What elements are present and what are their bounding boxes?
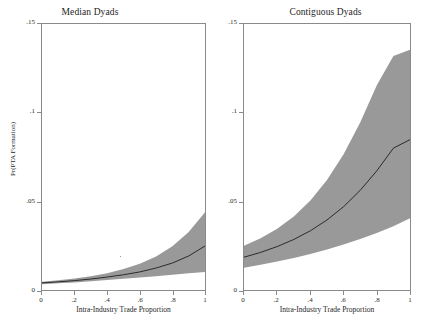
plot-area-contiguous-dyads xyxy=(243,23,411,291)
panel-title-contiguous-dyads: Contiguous Dyads xyxy=(210,7,433,17)
panel-contiguous-dyads: Contiguous Dyads 0 .05 .1 .15 0 .2 .4 xyxy=(202,0,433,329)
y-tick-left-3: .15 xyxy=(0,23,41,24)
x-tick-mark xyxy=(107,291,108,295)
x-axis-title-right: Intra-Industry Trade Proportion xyxy=(243,305,411,314)
figure-root: Median Dyads Pr(PTA Formation) 0 .05 .1 … xyxy=(0,0,433,329)
x-tick-mark xyxy=(243,291,244,295)
confidence-band xyxy=(42,212,205,284)
x-tick-mark xyxy=(74,291,75,295)
y-tick-left-0: 0 xyxy=(0,291,41,292)
plot-svg-median-dyads xyxy=(42,24,205,290)
x-axis-title-left: Intra-Industry Trade Proportion xyxy=(41,305,206,314)
y-tick-right-3: .15 xyxy=(202,23,243,24)
x-tick-mark xyxy=(41,291,42,295)
x-tick-mark xyxy=(276,291,277,295)
x-tick-mark xyxy=(140,291,141,295)
y-tick-left-2: .1 xyxy=(0,112,41,113)
y-tick-right-1: .05 xyxy=(202,202,243,203)
plot-svg-contiguous-dyads xyxy=(244,24,410,290)
x-tick-mark xyxy=(310,291,311,295)
panel-median-dyads: Median Dyads Pr(PTA Formation) 0 .05 .1 … xyxy=(0,0,216,329)
x-tick-mark xyxy=(173,291,174,295)
x-tick-mark xyxy=(410,291,411,295)
y-axis-title-left: Pr(PTA Formation) xyxy=(9,99,17,199)
y-tick-left-1: .05 xyxy=(0,202,41,203)
stray-mark xyxy=(120,256,121,257)
x-tick-mark xyxy=(343,291,344,295)
plot-area-median-dyads xyxy=(41,23,206,291)
panel-title-median-dyads: Median Dyads xyxy=(0,7,198,17)
y-tick-right-0: 0 xyxy=(202,291,243,292)
y-tick-right-2: .1 xyxy=(202,112,243,113)
x-tick-mark xyxy=(377,291,378,295)
